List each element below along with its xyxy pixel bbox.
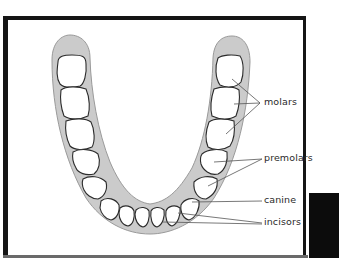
tooth-molar-r3 bbox=[216, 55, 243, 87]
tooth-molar-l1 bbox=[66, 119, 94, 150]
label-incisors: incisors bbox=[264, 216, 301, 227]
tooth-molar-r1 bbox=[206, 119, 234, 150]
label-canine: canine bbox=[264, 194, 296, 205]
label-molars: molars bbox=[264, 96, 297, 107]
tooth-molar-l2 bbox=[61, 87, 90, 119]
label-premolars: premolars bbox=[264, 152, 313, 163]
tooth-molar-r2 bbox=[211, 87, 239, 119]
tooth-molar-l3 bbox=[57, 55, 86, 87]
